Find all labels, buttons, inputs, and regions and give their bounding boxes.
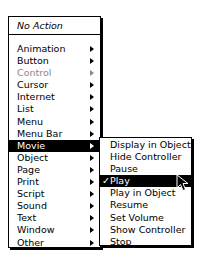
mouse-pointer-icon [176,174,190,192]
menu-item-label: Show Controller [110,224,185,235]
submenu-arrow-icon [90,155,94,161]
submenu-arrow-icon [90,46,94,52]
submenu-arrow-icon [90,70,94,76]
menu-item-label: Animation [17,43,65,54]
submenu-arrow-icon [90,82,94,88]
menu-item-page[interactable]: Page [9,164,100,176]
menu-item-label: Resume [110,199,148,210]
menu-item-label: Menu Bar [17,128,62,139]
submenu-arrow-icon [90,143,94,149]
menu-item-label: Page [17,164,40,175]
menu-item-label: Set Volume [110,212,164,223]
menu-item-label: Button [17,55,49,66]
action-menu: No Action Animation Button Control Curso… [8,16,101,248]
menu-item-other[interactable]: Other [9,237,100,249]
menu-item-label: Internet [17,91,55,102]
submenu-arrow-icon [90,58,94,64]
menu-item-label: Cursor [17,79,48,90]
checkmark-icon: ✓ [102,175,110,187]
submenu-item-resume[interactable]: Resume [100,199,191,211]
menu-item-label: Display in Object [110,139,191,150]
menu-item-label: Stop [110,236,132,247]
submenu-item-show-controller[interactable]: Show Controller [100,224,191,236]
menu-item-label: Script [17,188,45,199]
submenu-item-hide-controller[interactable]: Hide Controller [100,151,191,163]
menu-item-text[interactable]: Text [9,212,100,224]
menu-item-label: Movie [17,140,45,151]
menu-item-cursor[interactable]: Cursor [9,79,100,91]
menu-item-window[interactable]: Window [9,224,100,236]
menu-item-sound[interactable]: Sound [9,200,100,212]
menu-item-label: List [17,103,34,114]
menu-item-label: Window [17,224,54,235]
menu-item-internet[interactable]: Internet [9,91,100,103]
menu-item-label: Play [110,175,130,186]
submenu-arrow-icon [90,119,94,125]
menu-item-control: Control [9,67,100,79]
menu-item-label: Pause [110,163,138,174]
menu-item-object[interactable]: Object [9,152,100,164]
menu-item-label: Text [17,212,36,223]
submenu-arrow-icon [90,203,94,209]
menu-item-script[interactable]: Script [9,188,100,200]
submenu-arrow-icon [90,191,94,197]
menu-item-print[interactable]: Print [9,176,100,188]
menu-item-list[interactable]: List [9,103,100,115]
menu-item-menu[interactable]: Menu [9,116,100,128]
menu-item-label: Play in Object [110,187,175,198]
menu-item-label: Object [17,152,48,163]
menu-item-label: Sound [17,200,47,211]
menu-item-label: Other [17,237,44,248]
menu-item-animation[interactable]: Animation [9,43,100,55]
menu-item-label: Control [17,67,51,78]
submenu-item-stop[interactable]: Stop [100,236,191,248]
submenu-arrow-icon [90,215,94,221]
submenu-arrow-icon [90,131,94,137]
menu-item-menu-bar[interactable]: Menu Bar [9,128,100,140]
submenu-item-set-volume[interactable]: Set Volume [100,212,191,224]
menu-item-label: Print [17,176,39,187]
submenu-arrow-icon [90,106,94,112]
menu-item-label: Menu [17,116,43,127]
submenu-item-display-in-object[interactable]: Display in Object [100,139,191,151]
menu-item-movie[interactable]: Movie [9,140,100,152]
submenu-arrow-icon [90,179,94,185]
menu-item-label: Hide Controller [110,151,181,162]
menu-item-no-action[interactable]: No Action [9,17,100,35]
submenu-arrow-icon [90,167,94,173]
action-category-list: Animation Button Control Cursor Internet… [9,35,100,249]
submenu-arrow-icon [90,227,94,233]
submenu-arrow-icon [90,240,94,246]
submenu-arrow-icon [90,94,94,100]
menu-item-button[interactable]: Button [9,55,100,67]
